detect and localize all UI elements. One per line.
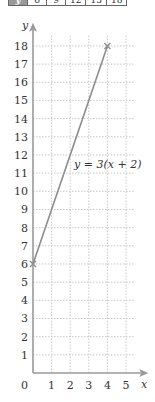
x-tick-label: 4 [104, 379, 111, 392]
y-tick-label: 12 [14, 149, 28, 162]
x-axis-label: x [141, 378, 148, 391]
x-tick-label: 0 [21, 379, 28, 392]
y-tick-label: 14 [14, 113, 28, 126]
y-tick-label: 3 [21, 312, 28, 325]
x-tick-label: 3 [85, 379, 92, 392]
y-tick-label: 11 [14, 167, 28, 180]
y-tick-label: 15 [14, 94, 28, 107]
y-tick-label: 13 [14, 131, 28, 144]
y-tick-label: 18 [14, 40, 28, 53]
y-tick-label: 4 [21, 294, 28, 307]
line-chart: 123456789101112131415161718012345 y = 3(… [0, 0, 155, 402]
y-tick-label: 16 [14, 76, 28, 89]
y-tick-label: 7 [21, 240, 28, 253]
equation-label: y = 3(x + 2) [73, 158, 141, 171]
y-tick-label: 17 [14, 58, 28, 71]
y-axis-label: y [21, 19, 29, 32]
y-tick-label: 8 [21, 222, 28, 235]
y-tick-label: 9 [21, 203, 28, 216]
y-tick-label: 6 [21, 258, 28, 271]
x-tick-label: 1 [48, 379, 55, 392]
x-tick-label: 2 [67, 379, 74, 392]
grid-lines [33, 35, 133, 373]
x-tick-label: 5 [123, 379, 130, 392]
y-tick-label: 10 [14, 185, 28, 198]
tick-labels: 123456789101112131415161718012345 [14, 40, 130, 392]
y-tick-label: 1 [21, 349, 28, 362]
y-tick-label: 2 [21, 331, 28, 344]
y-tick-label: 5 [21, 276, 28, 289]
